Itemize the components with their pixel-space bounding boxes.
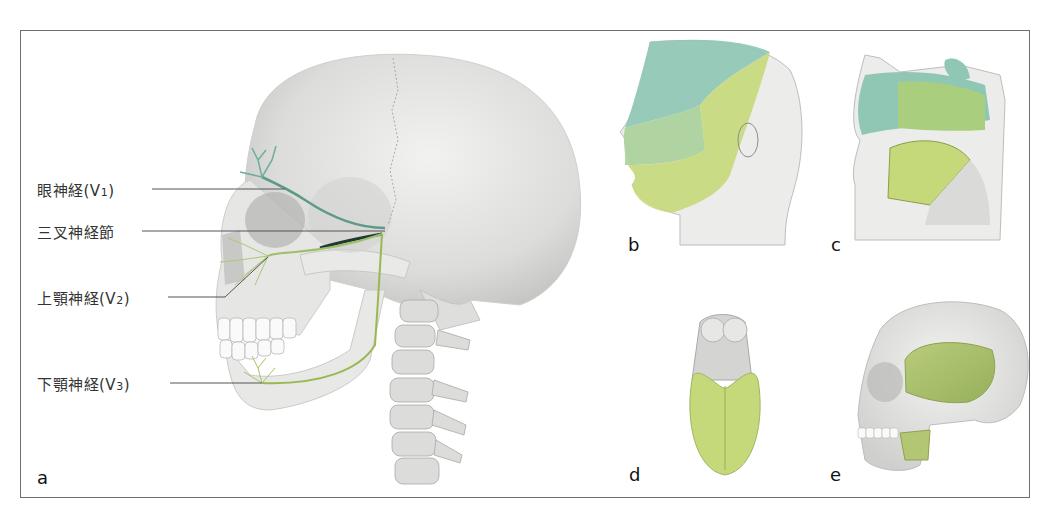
- label-ophthalmic-nerve-v1: 眼神経(V1): [37, 179, 114, 200]
- panel-c-nasal-oral-section: [853, 55, 1005, 240]
- panel-letter-a: a: [37, 467, 48, 488]
- label-mandibular-nerve-v3: 下顎神経(V3): [37, 373, 130, 394]
- label-trigeminal-ganglion: 三叉神経節: [37, 221, 115, 242]
- label-maxillary-nerve-v2: 上顎神経(V2): [37, 287, 130, 308]
- panel-letter-d: d: [629, 464, 640, 485]
- panel-letter-b: b: [628, 234, 639, 255]
- panel-letter-e: e: [830, 464, 841, 485]
- panel-b-head-zones: [620, 40, 802, 245]
- panel-e-skull-muscles: [858, 302, 1028, 471]
- panel-a-skull: [142, 54, 581, 484]
- panel-d-tongue: [690, 315, 760, 476]
- panel-letter-c: c: [831, 234, 841, 255]
- figure-illustrations: [0, 0, 1059, 518]
